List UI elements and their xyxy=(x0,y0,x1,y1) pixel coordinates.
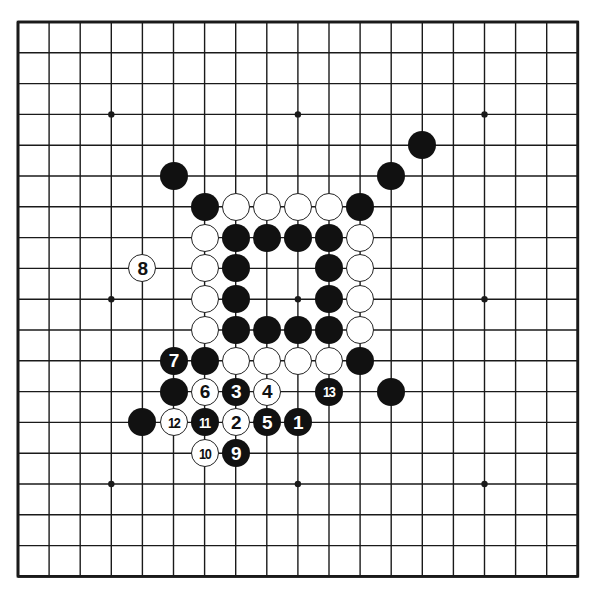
move-number: 7 xyxy=(169,351,179,370)
black-stone[interactable] xyxy=(222,224,250,252)
white-stone[interactable] xyxy=(284,193,312,221)
white-stone-move-12[interactable]: 12 xyxy=(160,408,188,436)
black-stone[interactable] xyxy=(346,193,374,221)
black-stone[interactable] xyxy=(222,316,250,344)
star-point xyxy=(295,111,301,117)
white-stone[interactable] xyxy=(191,316,219,344)
black-stone-move-11[interactable]: 11 xyxy=(191,408,219,436)
black-stone[interactable] xyxy=(346,347,374,375)
black-stone-move-7[interactable]: 7 xyxy=(160,347,188,375)
move-number: 9 xyxy=(231,444,241,463)
white-stone[interactable] xyxy=(222,347,250,375)
white-stone[interactable] xyxy=(253,193,281,221)
white-stone[interactable] xyxy=(346,316,374,344)
black-stone[interactable] xyxy=(191,193,219,221)
white-stone[interactable] xyxy=(346,224,374,252)
white-stone-move-10[interactable]: 10 xyxy=(191,439,219,467)
star-point xyxy=(108,296,114,302)
move-number: 4 xyxy=(262,382,272,401)
black-stone[interactable] xyxy=(377,378,405,406)
white-stone-move-2[interactable]: 2 xyxy=(222,408,250,436)
black-stone[interactable] xyxy=(160,162,188,190)
star-point xyxy=(481,111,487,117)
white-stone[interactable] xyxy=(191,254,219,282)
move-number: 8 xyxy=(138,259,148,278)
black-stone[interactable] xyxy=(315,316,343,344)
star-point xyxy=(481,481,487,487)
white-stone-move-4[interactable]: 4 xyxy=(253,378,281,406)
star-point xyxy=(295,481,301,487)
move-number: 3 xyxy=(231,382,241,401)
white-stone[interactable] xyxy=(222,193,250,221)
black-stone-move-9[interactable]: 9 xyxy=(222,439,250,467)
black-stone-move-13[interactable]: 13 xyxy=(315,378,343,406)
go-board[interactable]: 87634131211251109 xyxy=(0,0,592,602)
black-stone[interactable] xyxy=(284,316,312,344)
black-stone[interactable] xyxy=(253,316,281,344)
white-stone[interactable] xyxy=(315,347,343,375)
move-number: 12 xyxy=(168,415,180,430)
move-number: 2 xyxy=(231,413,241,432)
move-number: 5 xyxy=(262,413,272,432)
black-stone[interactable] xyxy=(315,285,343,313)
move-number: 11 xyxy=(199,415,210,430)
black-stone[interactable] xyxy=(191,347,219,375)
star-point xyxy=(481,296,487,302)
white-stone[interactable] xyxy=(191,285,219,313)
move-number: 6 xyxy=(200,382,210,401)
black-stone[interactable] xyxy=(253,224,281,252)
black-stone-move-3[interactable]: 3 xyxy=(222,378,250,406)
star-point xyxy=(108,111,114,117)
black-stone[interactable] xyxy=(377,162,405,190)
white-stone[interactable] xyxy=(315,193,343,221)
black-stone[interactable] xyxy=(315,224,343,252)
star-point xyxy=(108,481,114,487)
white-stone[interactable] xyxy=(284,347,312,375)
white-stone[interactable] xyxy=(253,347,281,375)
black-stone[interactable] xyxy=(222,285,250,313)
black-stone[interactable] xyxy=(222,254,250,282)
black-stone[interactable] xyxy=(284,224,312,252)
black-stone[interactable] xyxy=(160,378,188,406)
star-point xyxy=(295,296,301,302)
board-grid xyxy=(0,0,592,602)
move-number: 13 xyxy=(323,384,335,399)
move-number: 1 xyxy=(293,413,303,432)
move-number: 10 xyxy=(199,446,211,461)
black-stone-move-5[interactable]: 5 xyxy=(253,408,281,436)
white-stone-move-6[interactable]: 6 xyxy=(191,378,219,406)
white-stone[interactable] xyxy=(191,224,219,252)
